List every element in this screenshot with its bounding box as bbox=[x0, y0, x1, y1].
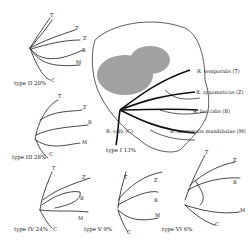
type3-letter-b: B bbox=[88, 120, 92, 125]
label-colli: R. colli (C) bbox=[106, 128, 133, 134]
type6-letter-b: B bbox=[233, 180, 237, 185]
type2-letter-b: B bbox=[82, 48, 86, 53]
type5-letter-z: Z bbox=[154, 178, 157, 183]
type5-letter-m: M bbox=[155, 213, 160, 218]
caption-type5: type V 9% bbox=[84, 226, 112, 232]
type4-letter-m: M bbox=[78, 216, 83, 221]
hair-shading bbox=[97, 46, 170, 95]
caption-type4: type IV 24% bbox=[14, 226, 48, 232]
type3-letter-m: M bbox=[82, 140, 87, 145]
type4-letter-t: T bbox=[52, 166, 55, 171]
type3-letter-c: C bbox=[49, 152, 53, 157]
type4-letter-z: Z bbox=[82, 175, 85, 180]
type2-letter-t: T bbox=[50, 13, 53, 18]
type6-letter-m: M bbox=[240, 208, 245, 213]
type2-letter-z2: Z bbox=[83, 36, 86, 41]
type5-letter-b: B bbox=[154, 198, 158, 203]
type6-letter-c: C bbox=[215, 222, 219, 227]
type5-letter-t: T bbox=[124, 175, 127, 180]
label-buccalis: R. buccalis (B) bbox=[193, 108, 230, 114]
type4-letter-b: B bbox=[80, 196, 84, 201]
type2-letter-c: C bbox=[51, 78, 55, 83]
caption-type3: type III 28% bbox=[12, 154, 46, 160]
type2-letter-m: M bbox=[76, 60, 81, 65]
type4-letter-c: C bbox=[53, 227, 57, 232]
type3-letter-t: T bbox=[58, 94, 61, 99]
nerve-diagram bbox=[0, 0, 250, 240]
caption-type1: type I 13% bbox=[106, 147, 136, 153]
type6-letter-t: T bbox=[205, 150, 208, 155]
panel-type3-branches bbox=[35, 100, 88, 158]
type6-letter-z: Z bbox=[233, 158, 236, 163]
panel-type6-branches bbox=[185, 155, 240, 225]
caption-type6: type VI 6% bbox=[162, 226, 192, 232]
label-zygomaticus: R. zygomaticus (Z) bbox=[196, 89, 244, 95]
type5-letter-c: C bbox=[127, 230, 131, 235]
label-marginalis-mandibulae: R. marginalis mandibulae (M) bbox=[170, 128, 246, 134]
type2-letter-z: Z bbox=[75, 26, 78, 31]
caption-type2: type II 20% bbox=[14, 80, 46, 86]
type3-letter-z: Z bbox=[83, 105, 86, 110]
label-temporalis: R. temporalis (T) bbox=[197, 68, 240, 74]
